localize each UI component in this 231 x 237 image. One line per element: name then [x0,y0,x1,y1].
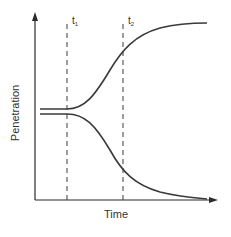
y-axis-label: Penetration [9,85,21,141]
chart: t1 t2 Penetration Time [0,0,231,237]
chart-svg: t1 t2 Penetration Time [0,0,231,237]
y-axis-arrow-icon [32,12,38,21]
x-axis-arrow-icon [209,197,218,203]
x-axis-label: Time [104,208,128,220]
t2-label: t2 [128,15,135,27]
t1-label: t1 [72,15,79,27]
